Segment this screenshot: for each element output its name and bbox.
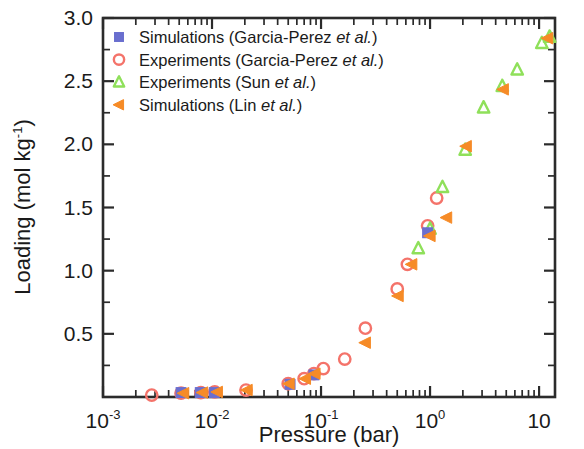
figure-container: 10-310-210-110010 0.51.01.52.02.53.0 Pre… [0, 0, 584, 449]
y-tick-label: 3.0 [64, 6, 93, 29]
data-point-marker [114, 54, 124, 64]
legend-item-label: Simulations (Lin et al.) [139, 96, 302, 114]
legend-item-label: Experiments (Garcia-Perez et al.) [139, 51, 384, 69]
y-axis-tick-labels: 0.51.01.52.02.53.0 [64, 6, 93, 345]
data-point-marker [431, 192, 442, 203]
x-tick-label: 10-3 [86, 407, 121, 432]
data-point-marker [113, 100, 123, 110]
legend-item-label: Simulations (Garcia-Perez et al.) [139, 28, 377, 46]
data-point-marker [114, 76, 124, 86]
x-tick-label: 10-2 [195, 407, 230, 432]
legend-item[interactable]: Simulations (Garcia-Perez et al.) [115, 28, 378, 46]
data-point-marker [440, 212, 452, 223]
adsorption-isotherm-chart: 10-310-210-110010 0.51.01.52.02.53.0 Pre… [0, 0, 584, 449]
x-axis-title: Pressure (bar) [259, 422, 400, 447]
data-point-marker [511, 63, 522, 74]
y-tick-label: 2.0 [64, 132, 93, 155]
data-point-marker [359, 337, 371, 348]
y-tick-label: 1.5 [64, 196, 93, 219]
legend-item-label: Experiments (Sun et al.) [139, 73, 316, 91]
y-axis-ticks [103, 18, 555, 365]
chart-legend: Simulations (Garcia-Perez et al.)Experim… [113, 28, 384, 114]
x-tick-label: 100 [415, 407, 446, 432]
legend-item[interactable]: Simulations (Lin et al.) [113, 96, 302, 114]
y-axis-title-superscript: -1 [10, 127, 25, 139]
x-tick-label: 10 [527, 409, 550, 432]
series-triangle-up-open [413, 30, 556, 253]
y-tick-label: 1.0 [64, 259, 93, 282]
y-axis-title-main: Loading (mol kg [10, 138, 35, 295]
legend-item[interactable]: Experiments (Garcia-Perez et al.) [114, 51, 384, 69]
legend-item[interactable]: Experiments (Sun et al.) [114, 73, 316, 91]
y-axis-title: Loading (mol kg-1) [10, 119, 35, 294]
y-axis-title-group: Loading (mol kg-1) [10, 119, 35, 294]
data-point-marker [478, 101, 489, 112]
data-point-marker [115, 33, 124, 42]
y-tick-label: 0.5 [64, 322, 93, 345]
data-point-marker [339, 353, 350, 364]
data-point-marker [413, 242, 424, 253]
y-axis-title-close: ) [10, 119, 35, 126]
y-tick-label: 2.5 [64, 69, 93, 92]
data-point-marker [360, 322, 371, 333]
data-point-marker [437, 181, 448, 192]
